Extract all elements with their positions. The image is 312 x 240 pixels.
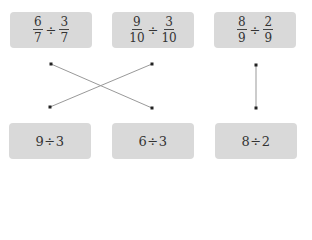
dot-top-1[interactable]	[50, 63, 53, 66]
expression: 9÷3	[36, 134, 65, 149]
dot-bottom-3[interactable]	[255, 107, 258, 110]
bottom-card-3[interactable]: 8÷2	[215, 123, 297, 159]
bottom-card-2[interactable]: 6÷3	[112, 123, 194, 159]
expression: 8÷2	[242, 134, 271, 149]
expression: 6÷3	[139, 134, 168, 149]
dot-top-3[interactable]	[255, 64, 258, 67]
dot-bottom-1[interactable]	[49, 106, 52, 109]
dot-top-2[interactable]	[151, 63, 154, 66]
dot-bottom-2[interactable]	[151, 107, 154, 110]
bottom-card-1[interactable]: 9÷3	[9, 123, 91, 159]
